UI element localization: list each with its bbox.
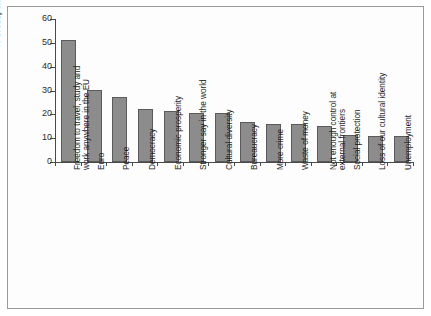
x-axis-category-label: Not enough control atexternal frontiers [329,92,347,170]
y-axis-tick-label: 0 [47,156,52,167]
y-axis-tick-label: 10 [42,132,52,143]
x-axis-category-label: Freedom to travel, study andwork anywher… [73,66,91,170]
x-axis-category-label-line: Social protection [353,109,362,170]
x-axis-category-label: Bureaucracy [250,124,259,170]
x-axis-category-label-line: Waste of money [301,111,310,170]
y-axis-tick-label: 60 [42,13,52,24]
x-axis-category-label-line: Freedom to travel, study and [73,66,82,170]
bar-slot [112,19,127,162]
x-axis-category-label: Cultural diversity [225,109,234,170]
x-axis-category-label: Waste of money [301,111,310,170]
x-axis-tick [157,162,158,166]
x-axis-tick [208,162,209,166]
x-axis-category-label-line: More crime [276,129,285,170]
x-axis-category-label-line: Democracy [148,129,157,170]
x-axis-category-label-line: Economic prosperity [174,96,183,170]
x-axis-category-label: Loss of our cultural identity [378,73,387,170]
x-axis-category-label: Euro [97,153,106,170]
y-axis-tick-label: 20 [42,108,52,119]
y-axis-tick-label: 40 [42,61,52,72]
x-axis-tick [55,162,56,166]
x-axis-category-label: Democracy [148,129,157,170]
x-axis-tick [387,162,388,166]
x-axis-category-label: Stronger say in the world [199,79,208,170]
x-axis-category-label: Unemployment [404,115,413,170]
x-axis-category-label-line: Cultural diversity [225,109,234,170]
x-axis-tick [132,162,133,166]
x-axis-tick [311,162,312,166]
x-axis-category-label-line: Loss of our cultural identity [378,73,387,170]
x-axis-category-label-line: external frontiers [338,92,347,170]
x-axis-category-label: Economic prosperity [174,96,183,170]
x-axis-category-label-line: Bureaucracy [250,124,259,170]
x-axis-category-label-line: Peace [122,147,131,170]
y-axis-title: % of respondents [0,0,2,48]
x-axis-category-label: More crime [276,129,285,170]
y-axis-tick-label: 50 [42,37,52,48]
chart-figure: % of respondents 0102030405060 Freedom t… [0,0,431,316]
x-axis-category-label-line: Stronger say in the world [199,79,208,170]
x-axis-category-label: Social protection [353,109,362,170]
x-axis-category-label: Peace [122,147,131,170]
x-axis-category-label-line: work anywhere in the EU [82,66,91,170]
x-axis-tick [260,162,261,166]
x-axis-category-label-line: Not enough control at [329,92,338,170]
y-axis-tick-label: 30 [42,85,52,96]
x-axis-category-label-line: Euro [97,153,106,170]
x-axis-category-label-line: Unemployment [404,115,413,170]
